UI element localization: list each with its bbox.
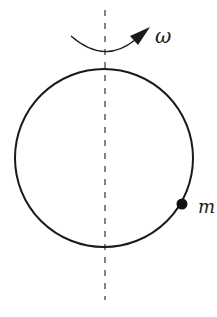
rotation-arrow-arc (71, 36, 135, 52)
hoop (15, 69, 193, 247)
diagram-canvas (0, 0, 217, 317)
hoop-diagram: ω m (0, 0, 217, 317)
bead (177, 199, 188, 210)
omega-label: ω (155, 26, 171, 46)
mass-label: m (198, 198, 215, 216)
